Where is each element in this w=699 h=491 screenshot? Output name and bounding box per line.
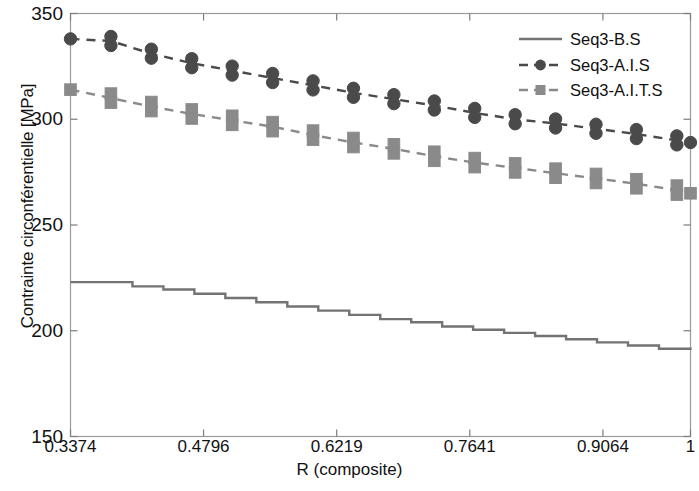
series-marker-1 (105, 39, 117, 51)
figure-canvas: Contrainte circonférentielle [MPa] R (co… (0, 0, 699, 491)
x-tick-label: 0.7641 (444, 437, 496, 457)
series-marker-2 (550, 172, 562, 184)
y-tick-label: 200 (8, 320, 63, 342)
series-marker-2 (590, 177, 602, 189)
series-marker-1 (145, 52, 157, 64)
series-marker-1 (630, 132, 642, 144)
series-marker-2 (429, 155, 441, 167)
legend-label-2: Seq3-A.I.T.S (570, 81, 663, 100)
series-marker-2 (685, 187, 697, 199)
series-marker-2 (267, 125, 279, 137)
series-marker-2 (469, 161, 481, 173)
series-marker-1 (549, 122, 561, 134)
x-tick-label: 0.6219 (311, 437, 363, 457)
series-marker-2 (105, 97, 117, 109)
series-marker-2 (509, 167, 521, 179)
x-tick-label: 0.9064 (577, 437, 629, 457)
x-axis-label: R (composite) (0, 460, 699, 480)
series-marker-2 (388, 148, 400, 160)
series-marker-1 (186, 62, 198, 74)
y-axis-label: Contrainte circonférentielle [MPa] (18, 0, 38, 416)
series-marker-2 (671, 189, 683, 201)
series-marker-2 (65, 84, 77, 96)
x-tick-label: 0.4796 (178, 437, 230, 457)
series-marker-2 (226, 119, 238, 131)
y-tick-label: 250 (8, 214, 63, 236)
y-tick-label: 150 (8, 426, 63, 448)
series-marker-2 (348, 141, 360, 153)
series-marker-1 (226, 69, 238, 81)
x-tick-label: 1 (686, 437, 695, 457)
series-marker-1 (469, 111, 481, 123)
series-marker-2 (631, 182, 643, 194)
series-marker-1 (347, 91, 359, 103)
series-marker-1 (428, 104, 440, 116)
legend-label-0: Seq3-B.S (570, 30, 641, 49)
series-marker-2 (146, 105, 158, 117)
series-marker-2 (307, 134, 319, 146)
series-marker-1 (684, 136, 696, 148)
series-marker-1 (388, 97, 400, 109)
series-marker-1 (671, 139, 683, 151)
series-marker-1 (590, 127, 602, 139)
series-marker-2 (186, 113, 198, 125)
series-marker-1 (509, 118, 521, 130)
series-marker-1 (266, 76, 278, 88)
series-marker-1 (64, 33, 76, 45)
y-tick-label: 300 (8, 108, 63, 130)
axes-frame (71, 14, 691, 437)
series-marker-1 (307, 84, 319, 96)
y-tick-label: 350 (8, 3, 63, 25)
series-line-0 (71, 282, 691, 350)
legend-label-1: Seq3-A.I.S (570, 56, 650, 75)
